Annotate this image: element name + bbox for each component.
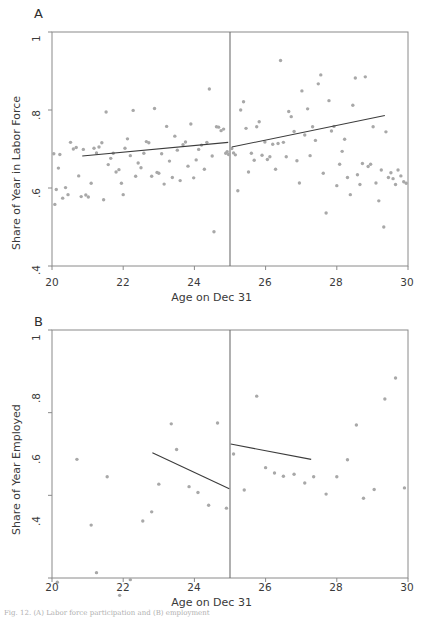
panel-b-x-axis-label: Age on Dec 31: [0, 596, 423, 609]
panel-a-xtick-28: 28: [322, 276, 350, 288]
panel-b-xtick-28: 28: [322, 581, 350, 593]
panel-b-plot-area: [0, 310, 423, 600]
panel-b-xtick-24: 24: [180, 581, 208, 593]
panel-a-xtick-26: 26: [251, 276, 279, 288]
panel-a-xtick-20: 20: [38, 276, 66, 288]
figure-caption: Fig. 12. (A) Labor force participation a…: [4, 609, 423, 621]
panel-b-xtick-26: 26: [251, 581, 279, 593]
panel-b-xtick-30: 30: [393, 581, 421, 593]
panel-a-x-axis-label: Age on Dec 31: [0, 291, 423, 304]
panel-b-xtick-22: 22: [109, 581, 137, 593]
panel-b-xtick-20: 20: [38, 581, 66, 593]
panel-a-plot-area: [0, 0, 423, 310]
panel-a-xtick-24: 24: [180, 276, 208, 288]
panel-a-xtick-22: 22: [109, 276, 137, 288]
figure-container: A Share of Year in Labor Force 1 .8 .6 .…: [0, 0, 423, 621]
panel-b: B Share of Year Employed 1 .8 .6 .4 20 2…: [0, 310, 423, 600]
panel-a-xtick-30: 30: [393, 276, 421, 288]
panel-a: A Share of Year in Labor Force 1 .8 .6 .…: [0, 0, 423, 310]
